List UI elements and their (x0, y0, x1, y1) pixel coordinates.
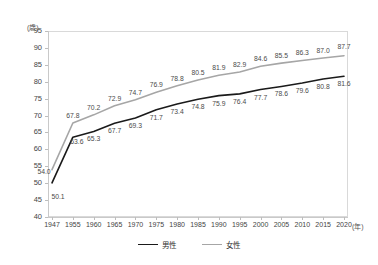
data-label: 81.9 (212, 64, 225, 71)
data-label: 67.8 (66, 112, 79, 119)
legend-label: 女性 (226, 239, 240, 250)
data-label: 72.9 (108, 95, 121, 102)
data-label: 77.7 (254, 94, 267, 101)
data-label: 75.9 (212, 100, 225, 107)
data-label: 87.0 (317, 47, 330, 54)
series-lines (0, 0, 378, 265)
data-label: 63.6 (70, 138, 83, 145)
life-expectancy-line-chart: (歳) (年) 959085807570656055504540 1947195… (0, 0, 378, 265)
data-label: 74.7 (129, 89, 142, 96)
data-label: 87.7 (337, 43, 350, 50)
data-label: 71.7 (150, 114, 163, 121)
data-label: 84.6 (254, 55, 267, 62)
data-label: 79.6 (296, 87, 309, 94)
data-label: 69.3 (129, 122, 142, 129)
data-label: 86.3 (296, 49, 309, 56)
data-label: 76.9 (150, 81, 163, 88)
data-label: 70.2 (87, 104, 100, 111)
data-label: 67.7 (108, 127, 121, 134)
data-label: 78.8 (171, 75, 184, 82)
chart-legend: 男性女性 (0, 239, 378, 250)
data-label: 73.4 (171, 108, 184, 115)
data-label: 74.8 (191, 103, 204, 110)
data-label: 85.5 (275, 52, 288, 59)
data-label: 80.5 (191, 69, 204, 76)
data-label: 50.1 (51, 193, 64, 200)
legend-item-女性[interactable]: 女性 (202, 239, 240, 250)
data-label: 80.8 (317, 83, 330, 90)
data-label: 54.0 (37, 168, 50, 175)
legend-label: 男性 (162, 239, 176, 250)
data-label: 65.3 (87, 135, 100, 142)
legend-item-男性[interactable]: 男性 (138, 239, 176, 250)
data-label: 78.6 (275, 90, 288, 97)
legend-swatch-icon (138, 244, 158, 245)
data-label: 82.9 (233, 61, 246, 68)
data-label: 76.4 (233, 98, 246, 105)
data-label: 81.6 (337, 80, 350, 87)
legend-swatch-icon (202, 244, 222, 245)
